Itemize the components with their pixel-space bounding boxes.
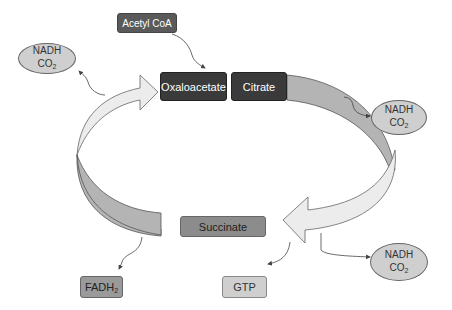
acetyl-coa-label: Acetyl CoA: [122, 18, 171, 29]
nadh-label: NADH: [385, 248, 413, 261]
co2-base: CO: [38, 58, 53, 69]
arrow-into-succinate: [283, 150, 395, 243]
co2-sub: 2: [53, 63, 57, 70]
citrate-node: Citrate: [231, 72, 287, 101]
co2-label: CO2: [390, 261, 409, 277]
gtp-node: GTP: [222, 276, 267, 298]
arrow-to-nadh-right-bottom: [321, 233, 370, 257]
oxaloacetate-node: Oxaloacetate: [160, 72, 227, 101]
arrow-acetyl-to-oxaloacetate: [172, 34, 205, 68]
citrate-label: Citrate: [243, 81, 275, 93]
co2-base: CO: [390, 262, 405, 273]
arrow-into-oxaloacetate: [77, 75, 158, 155]
co2-label: CO2: [38, 57, 57, 73]
oxaloacetate-label: Oxaloacetate: [161, 81, 226, 93]
arrow-to-fadh2: [119, 237, 142, 269]
co2-base: CO: [390, 117, 405, 128]
acetyl-coa-node: Acetyl CoA: [117, 13, 177, 33]
nadh-label: NADH: [33, 44, 61, 57]
succinate-label: Succinate: [199, 221, 247, 233]
co2-sub: 2: [405, 122, 409, 129]
co2-label: CO2: [390, 116, 409, 132]
arrow-to-nadh-top-left: [79, 71, 105, 95]
co2-sub: 2: [405, 267, 409, 274]
fadh2-node: FADH2: [80, 276, 123, 298]
nadh-co2-right-bottom: NADH CO2: [370, 243, 428, 281]
nadh-label: NADH: [385, 103, 413, 116]
arrow-to-gtp: [268, 242, 290, 264]
fadh2-base: FADH: [85, 281, 114, 293]
nadh-co2-top-left: NADH CO2: [18, 43, 76, 74]
succinate-node: Succinate: [180, 216, 266, 237]
fadh2-label: FADH2: [85, 281, 118, 294]
nadh-co2-right-top: NADH CO2: [371, 100, 427, 135]
gtp-label: GTP: [233, 281, 256, 293]
fadh2-sub: 2: [114, 287, 118, 294]
